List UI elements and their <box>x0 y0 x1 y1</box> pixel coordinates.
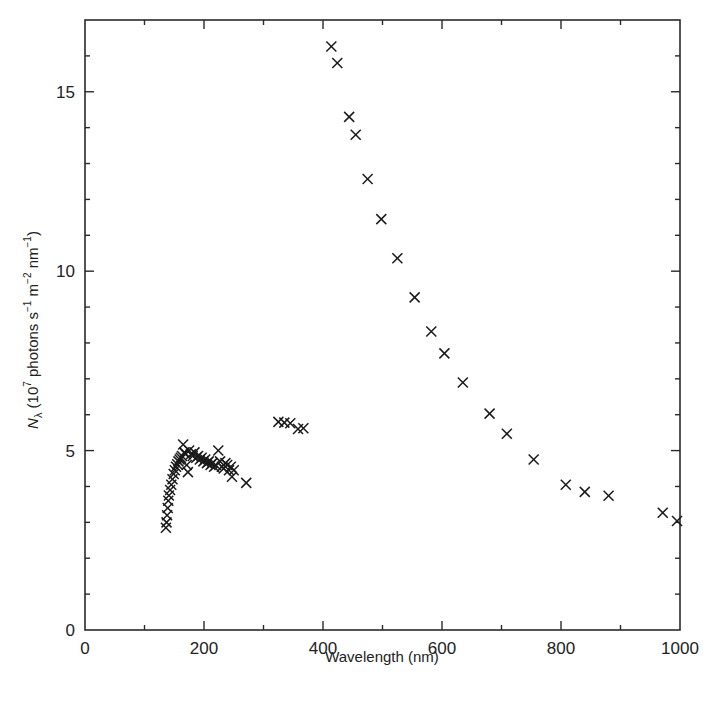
x-marker <box>485 409 495 419</box>
plot-frame <box>85 20 680 630</box>
x-marker <box>326 42 336 52</box>
axis-tick-labels: 02004006008001000051015 <box>56 83 699 658</box>
x-marker <box>285 418 295 428</box>
y-tick-label: 0 <box>66 621 75 640</box>
x-tick-label: 1000 <box>661 639 699 658</box>
x-marker <box>332 58 342 68</box>
x-axis-label: Wavelength (nm) <box>325 648 439 665</box>
data-markers <box>161 42 682 533</box>
x-marker <box>529 455 539 465</box>
x-marker <box>502 429 512 439</box>
x-marker <box>580 487 590 497</box>
x-tick-label: 200 <box>190 639 218 658</box>
y-tick-label: 10 <box>56 262 75 281</box>
axis-ticks <box>85 20 680 630</box>
x-marker <box>351 130 361 140</box>
x-marker <box>241 478 251 488</box>
x-tick-label: 800 <box>547 639 575 658</box>
y-axis-label: Nλ (107 photons s−1 m−2 nm−1) <box>22 231 44 429</box>
x-marker <box>298 423 308 433</box>
x-marker <box>363 174 373 184</box>
scatter-chart: 02004006008001000051015 Wavelength (nm) … <box>0 0 723 717</box>
x-marker <box>229 465 239 475</box>
x-marker <box>213 446 223 456</box>
x-marker <box>426 326 436 336</box>
x-marker <box>344 112 354 122</box>
x-marker <box>183 467 193 477</box>
x-marker <box>561 480 571 490</box>
x-marker <box>392 253 402 263</box>
x-marker <box>439 348 449 358</box>
x-marker <box>458 377 468 387</box>
x-marker <box>658 508 668 518</box>
x-marker <box>410 292 420 302</box>
x-marker <box>376 214 386 224</box>
x-tick-label: 0 <box>80 639 89 658</box>
y-tick-label: 15 <box>56 83 75 102</box>
y-tick-label: 5 <box>66 442 75 461</box>
x-marker <box>604 491 614 501</box>
